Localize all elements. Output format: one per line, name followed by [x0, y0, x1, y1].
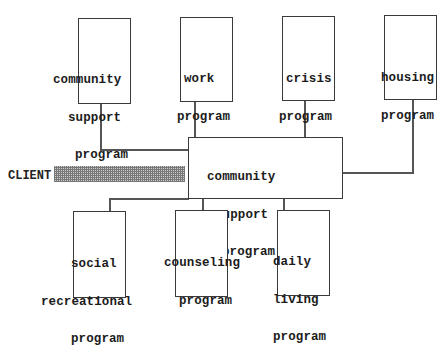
label-line: recreational: [41, 296, 132, 309]
label-line: community: [53, 74, 128, 87]
label-line: program: [279, 111, 332, 124]
label-line: program: [273, 331, 326, 344]
label-line: work: [184, 73, 230, 86]
label-line: housing: [381, 72, 434, 85]
label-line: program: [179, 295, 240, 308]
label-line: daily: [273, 256, 326, 269]
connector-daily-living: [283, 197, 285, 211]
connector-housing-h: [341, 172, 414, 174]
connector-social: [109, 198, 111, 212]
label-line: crisis: [286, 73, 332, 86]
label-line: program: [381, 110, 434, 123]
label-line: social: [71, 258, 132, 271]
label-line: program: [177, 111, 230, 124]
connector-counseling: [202, 197, 204, 211]
label-line: support: [68, 112, 128, 125]
housing-program-label: housing program: [381, 47, 434, 147]
client-label: CLIENT: [8, 169, 51, 183]
center-line-1: community: [207, 171, 275, 184]
label-line: program: [71, 333, 132, 346]
work-program-label: work program: [177, 48, 230, 148]
connector-social-h: [109, 198, 189, 200]
label-line: counseling: [164, 257, 240, 270]
label-line: program: [75, 149, 128, 162]
social-recreational-program-label: social recreational program: [41, 233, 132, 349]
label-line: living: [273, 294, 326, 307]
daily-living-program-label: daily living program: [273, 231, 326, 349]
counseling-program-label: counseling program: [164, 232, 240, 332]
crisis-program-label: crisis program: [279, 48, 332, 148]
community-support-program-label: community support program: [53, 49, 128, 187]
